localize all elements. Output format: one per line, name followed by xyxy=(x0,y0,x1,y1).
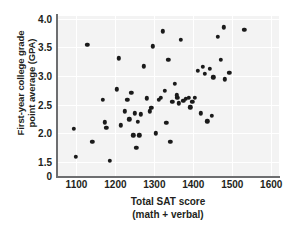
x-axis-title-line2: (math + verbal) xyxy=(57,209,279,222)
data-point xyxy=(119,123,123,127)
data-point xyxy=(200,65,204,69)
data-point xyxy=(90,140,94,144)
data-point xyxy=(145,96,149,100)
data-point xyxy=(170,100,174,104)
y-tick-label: 2.5 xyxy=(26,99,52,110)
y-axis-line xyxy=(56,14,58,177)
data-point xyxy=(216,34,220,38)
gridline-horizontal xyxy=(57,133,279,134)
gridline-horizontal xyxy=(57,162,279,163)
data-point xyxy=(142,64,146,68)
data-point xyxy=(147,109,151,113)
data-point xyxy=(242,28,246,32)
data-point xyxy=(158,96,162,100)
y-tick-label: 2.0 xyxy=(26,128,52,139)
x-tick-label: 1400 xyxy=(182,179,204,190)
data-point xyxy=(219,58,223,62)
data-point xyxy=(153,131,157,135)
gridline-vertical xyxy=(232,16,233,176)
data-point xyxy=(209,114,213,118)
data-point xyxy=(134,146,138,150)
data-point xyxy=(85,42,89,46)
y-axis-tick-labels: 1.52.02.53.03.54.00 xyxy=(24,0,52,234)
y-tick-label: 3.0 xyxy=(26,71,52,82)
data-point xyxy=(205,119,209,123)
data-point xyxy=(104,126,108,130)
data-point xyxy=(168,140,172,144)
data-point xyxy=(227,70,231,74)
gridline-vertical xyxy=(115,16,116,176)
gridline-horizontal xyxy=(57,19,279,20)
x-tick-label: 1100 xyxy=(66,179,88,190)
scatter-plot-figure: First-year college grade point average (… xyxy=(0,0,288,234)
data-point xyxy=(188,105,192,109)
data-point xyxy=(160,29,164,33)
data-point xyxy=(211,75,215,79)
y-tick-label: 3.5 xyxy=(26,42,52,53)
data-point xyxy=(149,106,153,110)
gridline-vertical xyxy=(271,16,272,176)
data-point xyxy=(132,111,136,115)
x-tick-label: 1500 xyxy=(221,179,243,190)
data-point xyxy=(196,69,200,73)
x-axis-title-line1: Total SAT score xyxy=(57,196,279,209)
data-point xyxy=(199,111,203,115)
data-point xyxy=(136,120,140,124)
data-point xyxy=(208,66,212,70)
data-point xyxy=(221,25,225,29)
data-point xyxy=(164,121,168,125)
data-point xyxy=(131,133,135,137)
data-point xyxy=(102,120,106,124)
data-point xyxy=(117,56,121,60)
data-point xyxy=(166,58,170,62)
x-tick-label: 1300 xyxy=(143,179,165,190)
data-point xyxy=(125,98,129,102)
data-point xyxy=(172,82,176,86)
data-point xyxy=(129,90,133,94)
data-point xyxy=(114,87,118,91)
y-tick-label: 4.0 xyxy=(26,13,52,24)
data-point xyxy=(163,89,167,93)
x-axis-tick-labels: 110012001300140015001600 xyxy=(0,179,288,193)
data-point xyxy=(193,96,197,100)
data-point xyxy=(127,117,131,121)
x-axis-title: Total SAT score (math + verbal) xyxy=(57,196,279,221)
gridline-horizontal xyxy=(57,47,279,48)
x-tick-label: 1600 xyxy=(260,179,282,190)
gridline-horizontal xyxy=(57,76,279,77)
gridline-horizontal xyxy=(57,105,279,106)
gridline-vertical xyxy=(76,16,77,176)
data-point xyxy=(223,77,227,81)
x-axis-line xyxy=(56,176,280,178)
plot-area xyxy=(57,16,279,176)
data-point xyxy=(72,126,76,130)
y-tick-label: 1.5 xyxy=(26,156,52,167)
data-point xyxy=(101,98,105,102)
data-point xyxy=(179,38,183,42)
data-point xyxy=(123,109,127,113)
x-tick-label: 1200 xyxy=(104,179,126,190)
data-point xyxy=(137,133,141,137)
gridline-vertical xyxy=(154,16,155,176)
data-point xyxy=(139,112,143,116)
